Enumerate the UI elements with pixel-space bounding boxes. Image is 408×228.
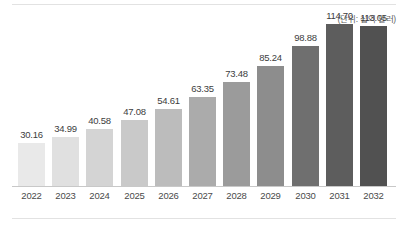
bar-group: 113.05 bbox=[360, 24, 387, 186]
bar-2029[interactable] bbox=[257, 66, 284, 186]
x-tick-label-2024: 2024 bbox=[80, 190, 119, 201]
bar-2030[interactable] bbox=[292, 46, 319, 186]
bar-2025[interactable] bbox=[121, 120, 148, 186]
plot-area: 30.1634.9940.5847.0854.6163.3573.4885.24… bbox=[0, 24, 408, 186]
bar-group: 30.16 bbox=[18, 24, 45, 186]
bar-value-label-2024: 40.58 bbox=[80, 115, 119, 126]
bar-value-label-2025: 47.08 bbox=[115, 106, 154, 117]
bar-value-label-2026: 54.61 bbox=[149, 95, 188, 106]
bar-2026[interactable] bbox=[155, 109, 182, 186]
bar-group: 47.08 bbox=[121, 24, 148, 186]
bar-chart-figure: (단위: 십억 달러) 30.1634.9940.5847.0854.6163.… bbox=[0, 0, 408, 228]
top-divider-rule bbox=[12, 4, 396, 5]
bar-group: 40.58 bbox=[86, 24, 113, 186]
bar-2027[interactable] bbox=[189, 97, 216, 186]
bar-group: 73.48 bbox=[223, 24, 250, 186]
bar-group: 114.70 bbox=[326, 24, 353, 186]
bar-group: 85.24 bbox=[257, 24, 284, 186]
bar-value-label-2027: 63.35 bbox=[183, 83, 222, 94]
bar-group: 34.99 bbox=[52, 24, 79, 186]
bar-group: 63.35 bbox=[189, 24, 216, 186]
bar-2028[interactable] bbox=[223, 82, 250, 186]
x-axis-label-row: 2022202320242025202620272028202920302031… bbox=[0, 190, 408, 210]
bar-group: 54.61 bbox=[155, 24, 182, 186]
x-tick-label-2032: 2032 bbox=[354, 190, 393, 201]
bar-2023[interactable] bbox=[52, 137, 79, 186]
bar-value-label-2028: 73.48 bbox=[217, 68, 256, 79]
bar-2022[interactable] bbox=[18, 143, 45, 186]
bar-value-label-2029: 85.24 bbox=[251, 52, 290, 63]
bar-2024[interactable] bbox=[86, 129, 113, 186]
bar-2032[interactable] bbox=[360, 26, 387, 186]
bar-group: 98.88 bbox=[292, 24, 319, 186]
bar-value-label-2030: 98.88 bbox=[286, 32, 325, 43]
x-axis-baseline bbox=[12, 186, 396, 187]
bar-value-label-2032: 113.05 bbox=[354, 12, 393, 23]
bar-2031[interactable] bbox=[326, 24, 353, 186]
bottom-divider-rule bbox=[12, 218, 396, 219]
x-tick-label-2029: 2029 bbox=[251, 190, 290, 201]
